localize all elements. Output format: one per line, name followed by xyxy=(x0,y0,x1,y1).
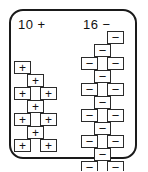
terminal-polarity-glyph: + xyxy=(19,61,26,73)
terminal-polarity-glyph: − xyxy=(86,135,94,148)
terminal-right-14: − xyxy=(94,148,111,161)
terminal-left-2: + xyxy=(27,74,44,87)
terminal-polarity-glyph: + xyxy=(19,113,26,125)
terminal-polarity-glyph: + xyxy=(45,139,52,151)
terminal-right-7: − xyxy=(107,83,124,96)
terminal-left-10: + xyxy=(40,139,57,152)
terminal-right-8: − xyxy=(94,96,111,109)
terminal-polarity-glyph: − xyxy=(99,122,107,135)
terminal-polarity-glyph: + xyxy=(45,113,52,125)
terminal-left-5: + xyxy=(27,100,44,113)
terminal-polarity-glyph: + xyxy=(32,100,39,112)
terminal-left-3: + xyxy=(14,87,31,100)
terminal-left-6: + xyxy=(14,113,31,126)
terminal-polarity-glyph: − xyxy=(99,96,107,109)
terminal-right-16: − xyxy=(107,161,124,171)
terminal-left-8: + xyxy=(27,126,44,139)
terminal-right-5: − xyxy=(94,70,111,83)
terminal-left-7: + xyxy=(40,113,57,126)
terminal-right-12: − xyxy=(81,135,98,148)
cluster-label-negative: 16 − xyxy=(83,18,111,31)
terminal-right-9: − xyxy=(81,109,98,122)
terminal-polarity-glyph: + xyxy=(19,139,26,151)
terminal-polarity-glyph: − xyxy=(86,83,94,96)
terminal-cluster-positive: ++++++++++ xyxy=(13,61,69,153)
terminal-polarity-glyph: + xyxy=(19,87,26,99)
terminal-right-4: − xyxy=(107,57,124,70)
terminal-polarity-glyph: − xyxy=(112,161,120,172)
terminal-polarity-glyph: − xyxy=(99,70,107,83)
terminal-right-11: − xyxy=(94,122,111,135)
terminal-polarity-glyph: − xyxy=(112,31,120,44)
terminal-polarity-glyph: − xyxy=(86,57,94,70)
terminal-right-13: − xyxy=(107,135,124,148)
terminal-left-9: + xyxy=(14,139,31,152)
terminal-polarity-glyph: − xyxy=(99,148,107,161)
terminal-polarity-glyph: − xyxy=(112,57,120,70)
terminal-polarity-glyph: + xyxy=(32,126,39,138)
terminal-polarity-glyph: − xyxy=(86,161,94,172)
terminal-right-2: − xyxy=(94,44,111,57)
terminal-polarity-glyph: − xyxy=(112,135,120,148)
terminal-right-6: − xyxy=(81,83,98,96)
terminal-right-1: − xyxy=(107,31,124,44)
terminal-cluster-negative: −−−−−−−−−−−−−−−− xyxy=(80,31,136,153)
terminal-right-10: − xyxy=(107,109,124,122)
terminal-right-3: − xyxy=(81,57,98,70)
connector-diagram: 10 + 16 − ++++++++++ −−−−−−−−−−−−−−−− xyxy=(0,0,148,171)
terminal-right-15: − xyxy=(81,161,98,171)
terminal-polarity-glyph: + xyxy=(45,87,52,99)
cluster-label-positive: 10 + xyxy=(18,18,46,31)
terminal-polarity-glyph: − xyxy=(99,44,107,57)
terminal-left-4: + xyxy=(40,87,57,100)
terminal-polarity-glyph: − xyxy=(112,109,120,122)
terminal-polarity-glyph: − xyxy=(112,83,120,96)
terminal-polarity-glyph: − xyxy=(86,109,94,122)
terminal-polarity-glyph: + xyxy=(32,74,39,86)
terminal-left-1: + xyxy=(14,61,31,74)
